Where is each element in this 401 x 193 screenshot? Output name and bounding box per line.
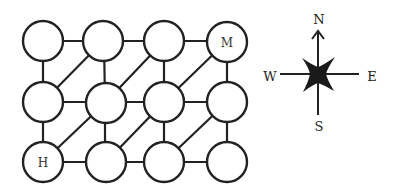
compass-label-south: S: [315, 119, 324, 134]
node-r2c3: [144, 82, 184, 122]
node-r2c4: [207, 82, 247, 122]
compass-label-east: E: [367, 69, 377, 84]
diagram-canvas: M H N S W E: [0, 0, 401, 193]
compass-label-north: N: [313, 12, 324, 27]
node-r2c1: [23, 82, 63, 122]
compass-rose: N S W E: [263, 12, 376, 134]
node-r2c2: [86, 83, 126, 123]
node-r3c2: [86, 142, 126, 182]
grid-edges-horizontal: [43, 41, 227, 162]
node-r3c4: [207, 142, 247, 182]
compass-label-west: W: [263, 69, 277, 84]
node-r1c1: [23, 21, 63, 61]
node-label-h: H: [38, 156, 48, 170]
node-label-m: M: [221, 36, 233, 50]
node-r1c3: [144, 21, 184, 61]
node-r3c3: [144, 142, 184, 182]
node-r1c2: [83, 21, 123, 61]
